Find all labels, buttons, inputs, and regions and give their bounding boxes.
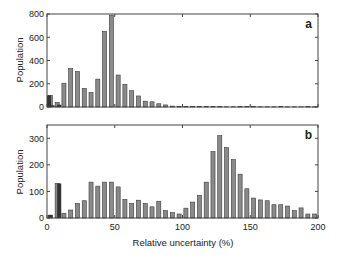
histogram-bar [109,182,113,218]
histogram-bar-dark [57,183,61,218]
histogram-bar [177,214,181,218]
histogram-bar [75,203,79,218]
histogram-bar [103,182,107,218]
panel-a-frame [47,14,318,107]
histogram-bar [252,198,256,218]
y-tick-label: 0 [39,213,44,223]
histogram-bar [306,214,310,218]
panel-b-label: b [305,128,312,142]
panel-b-histogram: 0100200300 050100150200 b Population Rel… [14,125,326,248]
histogram-bar [62,213,66,218]
histogram-bar [211,152,215,218]
histogram-bar [272,205,276,218]
y-tick-label: 100 [29,187,44,197]
histogram-bar [130,203,134,218]
histogram-bar [225,148,229,218]
histogram-bar [75,72,79,107]
histogram-bar [136,96,140,107]
histogram-bar [96,79,100,107]
histogram-bar [204,182,208,218]
histogram-bar [96,186,100,218]
panel-a-histogram: 0200400600800 a Population [14,9,318,112]
histogram-bar [143,203,147,218]
panel-b-bars [48,136,316,218]
histogram-bar [245,189,249,218]
histogram-bar [150,102,154,107]
histogram-bar [62,83,66,107]
histogram-bar [136,200,140,218]
y-tick-label: 800 [29,9,44,19]
histogram-bar [130,91,134,107]
histogram-bar [313,214,317,218]
histogram-bar [143,101,147,107]
y-tick-label: 400 [29,56,44,66]
histogram-bar [299,208,303,218]
x-tick-label: 50 [110,222,120,232]
x-tick-label: 100 [175,222,190,232]
histogram-bar [89,182,93,218]
panel-a-bars [47,15,317,107]
histogram-bar [82,201,86,218]
histogram-bar [191,202,195,218]
histogram-bar [116,187,120,218]
panel-b-y-axis-label: Population [14,150,25,195]
histogram-bar [89,92,93,107]
histogram-bar [231,160,235,218]
histogram-bar [279,205,283,218]
histogram-bar [265,201,269,218]
histogram-bar [197,195,201,218]
x-tick-label: 200 [310,222,325,232]
histogram-bar [123,199,127,218]
histogram-bar [292,211,296,218]
histogram-bar [218,136,222,218]
histogram-bar [109,15,113,107]
histogram-bar [285,206,289,218]
y-tick-label: 200 [29,79,44,89]
panel-b-frame [47,125,318,218]
y-tick-label: 200 [29,160,44,170]
histogram-bar [170,213,174,218]
histogram-bar [123,84,127,107]
x-axis-label: Relative uncertainty (%) [133,237,234,248]
histogram-bar [69,69,73,107]
y-tick-label: 0 [39,102,44,112]
y-tick-label: 300 [29,134,44,144]
histogram-bar [150,207,154,218]
histogram-bar [82,88,86,107]
x-tick-label: 0 [44,222,49,232]
panel-a-label: a [305,17,312,31]
y-tick-label: 600 [29,33,44,43]
histogram-bar [103,31,107,107]
histogram-bar [238,174,242,218]
histogram-bar [184,208,188,218]
panel-a-x-ticks [47,14,318,107]
histogram-bar [258,200,262,218]
panel-a-y-axis-label: Population [14,38,25,83]
histogram-bar [69,210,73,218]
x-tick-label: 150 [243,222,258,232]
histogram-bar [164,211,168,218]
histogram-bar [116,75,120,107]
histogram-bar [157,201,161,218]
histogram-figure: 0200400600800 a Population 0100200300 05… [0,0,338,257]
